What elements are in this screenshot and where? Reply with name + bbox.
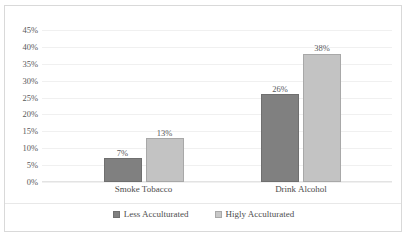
y-axis-tick-label: 10% (4, 144, 38, 153)
y-axis-tick-label: 30% (4, 76, 38, 85)
legend-item-less-acculturated[interactable]: Less Acculturated (113, 210, 189, 219)
x-axis: Smoke TobaccoDrink Alcohol (42, 185, 392, 199)
y-axis-tick-label: 25% (4, 93, 38, 102)
gridline (42, 47, 392, 48)
legend-label: Higly Acculturated (226, 210, 295, 219)
chart-legend: Less Acculturated Higly Acculturated (0, 210, 407, 219)
legend-label: Less Acculturated (124, 210, 189, 219)
legend-swatch-icon (113, 211, 120, 218)
bar[interactable]: 7% (104, 158, 142, 182)
bar-chart: 45%40%35%30%25%20%15%10%5%0% 7%13%26%38%… (0, 0, 407, 238)
bar-value-label: 13% (157, 129, 173, 138)
bar[interactable]: 26% (261, 94, 299, 182)
y-axis-tick-label: 35% (4, 60, 38, 69)
bar-value-label: 7% (117, 149, 128, 158)
y-axis-tick-label: 15% (4, 127, 38, 136)
legend-swatch-icon (215, 211, 222, 218)
y-axis-tick-label: 0% (4, 178, 38, 187)
y-axis: 45%40%35%30%25%20%15%10%5%0% (0, 30, 38, 182)
y-axis-tick-label: 40% (4, 43, 38, 52)
gridline (42, 30, 392, 31)
x-axis-category-label: Smoke Tobacco (84, 185, 204, 194)
plot-area: 7%13%26%38% (42, 30, 392, 182)
gridline (42, 182, 392, 183)
y-axis-tick-label: 5% (4, 161, 38, 170)
y-axis-tick-label: 45% (4, 26, 38, 35)
legend-separator (5, 203, 401, 204)
bar[interactable]: 13% (146, 138, 184, 182)
bar-value-label: 38% (314, 44, 330, 53)
bar[interactable]: 38% (303, 54, 341, 182)
x-axis-category-label: Drink Alcohol (241, 185, 361, 194)
legend-item-higly-acculturated[interactable]: Higly Acculturated (215, 210, 295, 219)
bar-value-label: 26% (272, 85, 288, 94)
y-axis-tick-label: 20% (4, 110, 38, 119)
